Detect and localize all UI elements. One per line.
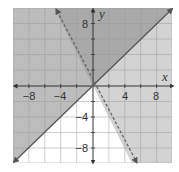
y-tick-label: −4 (75, 111, 88, 123)
y-axis-label: y (97, 6, 105, 21)
x-tick-label: 4 (122, 90, 128, 102)
y-tick-label: 8 (82, 18, 88, 30)
x-tick-label: −8 (23, 90, 36, 102)
y-tick-label: −8 (75, 142, 88, 154)
coordinate-plane: −8 −4 4 8 8 −4 −8 x y (0, 0, 179, 172)
x-tick-label: 8 (153, 90, 159, 102)
x-tick-label: −4 (54, 90, 67, 102)
x-axis-label: x (161, 69, 168, 84)
